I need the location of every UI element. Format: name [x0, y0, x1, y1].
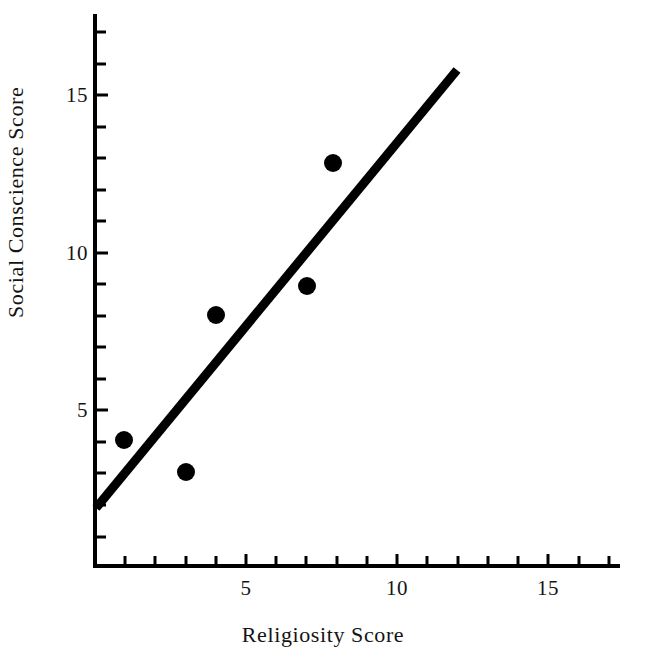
y-tick-label-15: 15 — [66, 83, 88, 108]
y-tick-label-5: 5 — [77, 398, 88, 423]
y-tick-label-10: 10 — [66, 241, 88, 266]
data-point — [115, 431, 133, 449]
plot-canvas — [0, 0, 646, 666]
x-tick-label-15: 15 — [537, 576, 559, 601]
x-tick-label-10: 10 — [386, 576, 408, 601]
data-point — [324, 154, 342, 172]
x-axis-title: Religiosity Score — [242, 622, 404, 648]
data-point — [207, 306, 225, 324]
x-tick-label-5: 5 — [241, 576, 252, 601]
data-point — [177, 463, 195, 481]
y-axis-title: Social Conscience Score — [3, 87, 29, 318]
data-point — [298, 277, 316, 295]
scatter-plot-figure: 5 10 15 5 10 15 Religiosity Score Social… — [0, 0, 646, 666]
